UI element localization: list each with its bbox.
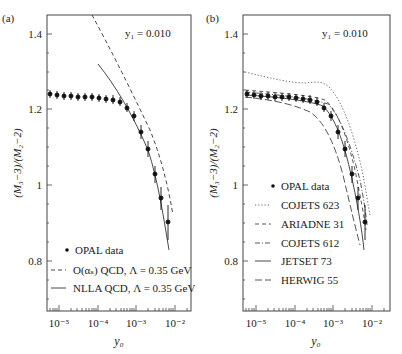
legend-label: COJETS 623 [281,199,340,211]
curve-nlla-qcd [98,64,169,250]
panel-b: (b) y₁ = 0.010 1.4 1.2 1 0.8 (M₃−3)/(M₂−… [206,12,390,348]
panel-b-label: (b) [206,12,219,25]
panel-a: (a) y₁ = 0.010 1.4 1.2 1 0.8 (M₃−3)/(M₂−… [2,12,195,348]
y-tick-label: 1 [37,179,43,191]
y-tick-label: 1.4 [28,28,42,40]
opal-data-points-a [48,90,170,240]
x-axis-ticks-a [50,305,187,311]
legend-b: OPAL data COJETS 623 ARIADNE 31 COJETS 6… [255,180,344,286]
legend-label: OPAL data [281,180,329,192]
y-axis-label-b: (M₃−3)/(M₂−2) [207,128,220,198]
y-tick-label: 1 [233,179,239,191]
x-tick-label: 10⁻² [362,317,383,329]
figure: (a) y₁ = 0.010 1.4 1.2 1 0.8 (M₃−3)/(M₂−… [0,0,402,354]
y-tick-label: 0.8 [28,255,42,267]
y-axis-ticks-b [243,34,248,299]
y-tick-label: 0.8 [224,255,238,267]
legend-label: COJETS 612 [281,237,339,249]
legend-marker-point [271,184,275,188]
y-tick-label: 1.2 [224,103,238,115]
curve-cojets-623 [245,72,370,215]
legend-label: ARIADNE 31 [281,218,344,230]
legend-marker-point [65,248,69,252]
annotation-a: y₁ = 0.010 [125,27,171,39]
legend-label: OPAL data [75,244,123,256]
x-axis-ticks-b [246,305,384,311]
legend-label: NLLA QCD, Λ = 0.35 GeV [73,282,195,294]
legend-label: O(αₛ) QCD, Λ = 0.35 GeV [73,264,191,277]
legend-label: HERWIG 55 [281,274,339,286]
legend-a: OPAL data O(αₛ) QCD, Λ = 0.35 GeV NLLA Q… [51,244,195,294]
x-tick-label: 10⁻⁵ [49,317,70,329]
panel-a-label: (a) [2,12,15,25]
y-tick-label: 1.2 [28,103,42,115]
legend-label: JETSET 73 [281,255,332,267]
x-axis-label-b: y₀ [310,334,321,348]
x-tick-label: 10⁻² [165,317,186,329]
y-tick-label: 1.4 [224,28,238,40]
y-axis-label-a: (M₃−3)/(M₂−2) [11,128,24,198]
x-tick-label: 10⁻⁴ [285,317,306,329]
x-tick-label: 10⁻³ [323,317,344,329]
x-tick-label: 10⁻⁴ [88,317,109,329]
x-tick-label: 10⁻⁵ [246,317,267,329]
y-axis-ticks-a [47,34,52,299]
annotation-b: y₁ = 0.010 [322,27,368,39]
x-tick-label: 10⁻³ [126,317,147,329]
x-axis-label-a: y₀ [113,334,124,348]
